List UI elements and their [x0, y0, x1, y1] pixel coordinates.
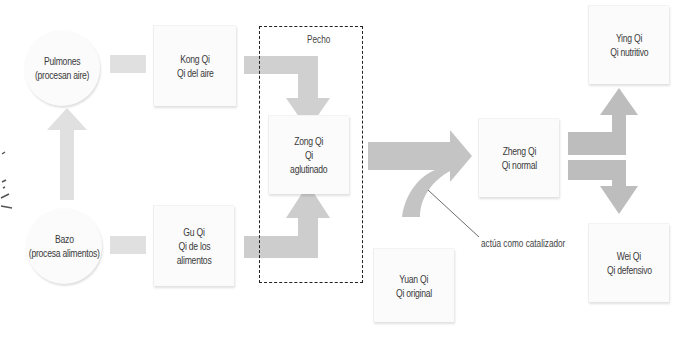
- node-kong-qi: Kong Qi Qi del aire: [153, 25, 236, 106]
- node-zheng-qi-line2: Qi normal: [501, 158, 536, 172]
- node-zong-qi: Zong Qi Qi aglutinado: [268, 115, 349, 194]
- node-ying-qi-line2: Qi nutritivo: [610, 45, 648, 59]
- catalyst-annotation: actúa como catalizador: [481, 238, 565, 249]
- node-gu-qi-line2: Qi de los: [178, 239, 210, 253]
- connector-lungs-kong: [110, 55, 146, 73]
- decorative-mark: [1, 152, 12, 208]
- node-ying-qi: Ying Qi Qi nutritivo: [588, 5, 669, 84]
- connector-spleen-gu: [110, 236, 146, 254]
- node-gu-qi: Gu Qi Qi de los alimentos: [153, 205, 234, 286]
- node-zong-qi-line2: Qi: [305, 148, 313, 162]
- node-spleen-line2: (procesa alimentos): [29, 246, 100, 260]
- chest-label: Pecho: [307, 34, 330, 45]
- node-ying-qi-line1: Ying Qi: [616, 31, 642, 45]
- node-lungs: Pulmones (procesan aire): [24, 30, 100, 106]
- arrow-zheng-to-wei: [568, 160, 638, 214]
- node-zheng-qi-line1: Zheng Qi: [502, 144, 535, 158]
- node-lungs-line1: Pulmones: [44, 54, 80, 68]
- node-gu-qi-line3: alimentos: [177, 253, 212, 267]
- arrow-zong-to-zheng: [368, 130, 472, 182]
- node-zheng-qi: Zheng Qi Qi normal: [478, 118, 559, 197]
- node-spleen: Bazo (procesa alimentos): [26, 208, 102, 284]
- node-wei-qi: Wei Qi Qi defensivo: [588, 223, 669, 302]
- arrow-spleen-to-lungs: [47, 108, 87, 200]
- node-wei-qi-line1: Wei Qi: [617, 249, 641, 263]
- node-yuan-qi-line1: Yuan Qi: [400, 272, 429, 286]
- arrow-zheng-to-ying: [568, 88, 638, 155]
- node-yuan-qi: Yuan Qi Qi original: [373, 248, 454, 322]
- node-gu-qi-line1: Gu Qi: [183, 225, 204, 239]
- node-wei-qi-line2: Qi defensivo: [607, 263, 652, 277]
- node-kong-qi-line2: Qi del aire: [177, 66, 214, 80]
- node-kong-qi-line1: Kong Qi: [180, 52, 209, 66]
- catalyst-leader-line: [428, 190, 479, 237]
- arrow-yuan-curve: [402, 168, 452, 217]
- node-zong-qi-line3: aglutinado: [290, 162, 327, 176]
- node-zong-qi-line1: Zong Qi: [295, 134, 324, 148]
- node-spleen-line1: Bazo: [55, 232, 74, 246]
- node-lungs-line2: (procesan aire): [35, 68, 89, 82]
- node-yuan-qi-line2: Qi original: [396, 286, 432, 300]
